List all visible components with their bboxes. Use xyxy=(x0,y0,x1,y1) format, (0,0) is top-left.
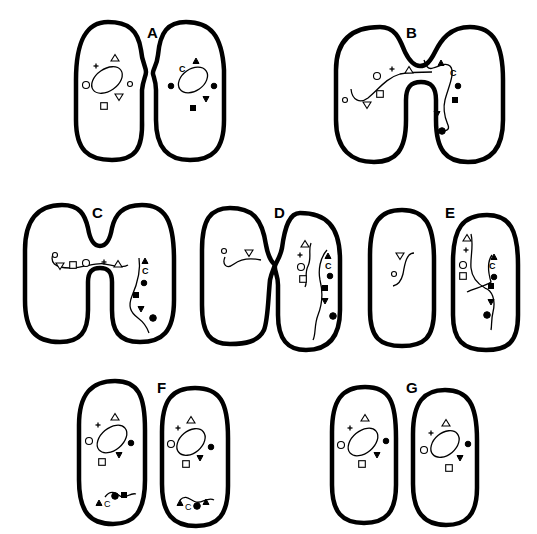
panel-d: D C xyxy=(202,204,340,350)
panel-label-b: B xyxy=(406,24,417,41)
svg-text:C: C xyxy=(489,261,496,271)
panel-label-e: E xyxy=(445,204,455,221)
panel-g: G xyxy=(332,379,477,525)
recipient-cell-d xyxy=(275,213,340,350)
panel-label-c: C xyxy=(92,204,103,221)
daughter-cell-f1 xyxy=(79,381,145,524)
svg-text:C: C xyxy=(185,502,192,512)
fused-cells-b xyxy=(336,27,503,162)
donor-cell-d xyxy=(202,208,275,344)
recombinant-cell-g2 xyxy=(413,390,477,525)
panel-a: A C xyxy=(76,22,224,160)
recipient-cell xyxy=(153,22,224,160)
panel-label-f: F xyxy=(157,379,166,396)
panel-c: C C xyxy=(25,204,174,342)
panel-label-a: A xyxy=(147,24,158,41)
panel-label-d: D xyxy=(274,204,285,221)
recipient-cell-e xyxy=(453,215,518,350)
panel-f: F C C xyxy=(79,379,228,526)
conjugation-diagram: A C B C xyxy=(0,0,537,534)
panel-e: E C xyxy=(370,204,518,350)
svg-text:C: C xyxy=(325,261,332,271)
recombinant-cell-g1 xyxy=(332,387,396,523)
panel-b: B C xyxy=(336,24,503,162)
svg-text:C: C xyxy=(104,499,111,509)
svg-text:C: C xyxy=(142,266,149,276)
svg-text:C: C xyxy=(450,68,457,78)
svg-text:C: C xyxy=(179,64,186,74)
panel-label-g: G xyxy=(406,379,418,396)
